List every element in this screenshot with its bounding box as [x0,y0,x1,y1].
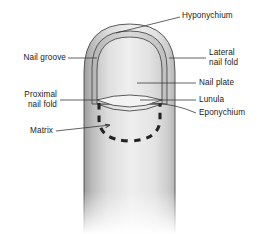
label-hyponychium: Hyponychium [182,11,233,21]
nail-plate-shape [97,37,162,104]
label-eponychium: Eponychium [199,108,245,118]
label-lunula: Lunula [199,95,224,105]
fingernail-anatomy-figure: Hyponychium Nail groove Lateral nail fol… [0,0,259,234]
label-nail-groove: Nail groove [4,53,66,63]
label-proximal-nail-fold: Proximal nail fold [0,90,57,109]
label-matrix: Matrix [0,126,53,136]
label-lateral-nail-fold: Lateral nail fold [209,48,238,67]
label-nail-plate: Nail plate [199,78,234,88]
